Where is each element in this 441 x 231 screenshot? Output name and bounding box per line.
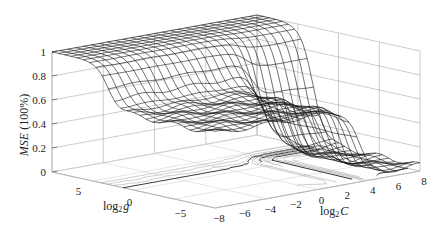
svg-text:6: 6 <box>396 180 402 192</box>
svg-text:−6: −6 <box>239 207 251 219</box>
svg-text:−4: −4 <box>264 203 276 215</box>
svg-text:8: 8 <box>421 175 427 187</box>
svg-text:0.8: 0.8 <box>32 70 46 82</box>
svg-text:0: 0 <box>41 166 47 178</box>
svg-text:−8: −8 <box>213 212 225 224</box>
svg-text:−2: −2 <box>290 198 302 210</box>
svg-text:5: 5 <box>76 185 82 197</box>
g-axis-label: log2g <box>103 199 129 214</box>
svg-text:2: 2 <box>344 189 350 201</box>
mse-surface-chart: 00.20.40.60.8150−5−8−6−4−202468 MSE (100… <box>0 0 441 231</box>
svg-text:0.4: 0.4 <box>32 118 46 130</box>
svg-text:0.6: 0.6 <box>32 94 46 106</box>
svg-text:−5: −5 <box>175 207 187 219</box>
svg-text:4: 4 <box>370 184 376 196</box>
c-axis-label: log2C <box>320 204 349 219</box>
surface-plot: 00.20.40.60.8150−5−8−6−4−202468 MSE (100… <box>0 0 441 231</box>
svg-text:0.2: 0.2 <box>32 142 46 154</box>
axis-grid <box>52 15 420 208</box>
z-axis-label: MSE (100%) <box>17 94 31 157</box>
svg-text:1: 1 <box>41 46 47 58</box>
